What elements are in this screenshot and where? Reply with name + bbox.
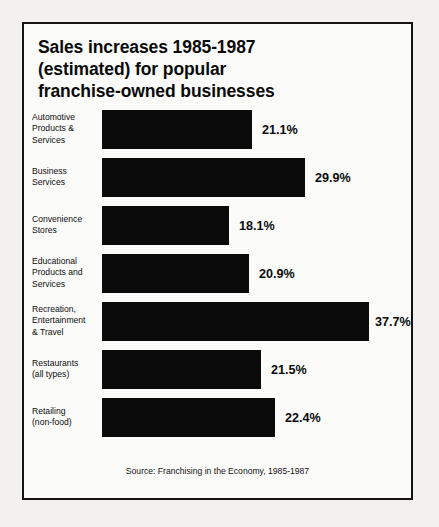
category-label-line: Automotive: [32, 112, 102, 124]
category-label-line: Services: [32, 279, 102, 291]
category-label-line: Business: [32, 166, 102, 178]
category-label: Restaurants (all types): [32, 358, 102, 382]
category-label: Recreation, Entertainment & Travel: [32, 304, 102, 340]
category-label: Business Services: [32, 166, 102, 190]
category-label-line: Services: [32, 178, 102, 190]
bar-row: Restaurants (all types) 21.5%: [24, 350, 411, 389]
category-label-line: Services: [32, 135, 102, 147]
bar: [102, 254, 249, 293]
category-label-line: (all types): [32, 370, 102, 382]
bar: [102, 398, 275, 437]
category-label: Automotive Products & Services: [32, 112, 102, 148]
bar: [102, 302, 369, 341]
source-note: Source: Franchising in the Economy, 1985…: [24, 466, 411, 476]
chart-title-line-1: Sales increases 1985-1987: [38, 36, 368, 58]
category-label: Educational Products and Services: [32, 256, 102, 292]
category-label-line: (non-food): [32, 418, 102, 430]
bar: [102, 350, 261, 389]
category-label-line: Restaurants: [32, 358, 102, 370]
chart-title-line-3: franchise-owned businesses: [38, 80, 368, 102]
bar-value-label: 21.5%: [271, 363, 307, 377]
chart-title-line-2: (estimated) for popular: [38, 58, 368, 80]
bar-row: Retailing (non-food) 22.4%: [24, 398, 411, 437]
bar-row: Automotive Products & Services 21.1%: [24, 110, 411, 149]
category-label-line: Recreation,: [32, 304, 102, 316]
category-label-line: Products and: [32, 268, 102, 280]
bar-value-label: 18.1%: [239, 219, 275, 233]
category-label-line: Entertainment: [32, 316, 102, 328]
bar-row: Educational Products and Services 20.9%: [24, 254, 411, 293]
bar-row: Convenience Stores 18.1%: [24, 206, 411, 245]
bar: [102, 206, 229, 245]
bar-value-label: 20.9%: [259, 267, 295, 281]
category-label-line: Stores: [32, 226, 102, 238]
category-label-line: Convenience: [32, 214, 102, 226]
chart-frame: Sales increases 1985-1987 (estimated) fo…: [22, 22, 413, 500]
bar-value-label: 37.7%: [375, 315, 411, 329]
category-label-line: Retailing: [32, 406, 102, 418]
category-label: Convenience Stores: [32, 214, 102, 238]
bar: [102, 110, 252, 149]
bar: [102, 158, 305, 197]
bar-row: Business Services 29.9%: [24, 158, 411, 197]
bar-value-label: 21.1%: [262, 123, 298, 137]
bar-value-label: 29.9%: [315, 171, 351, 185]
category-label-line: & Travel: [32, 327, 102, 339]
bar-value-label: 22.4%: [285, 411, 321, 425]
bar-chart-plot-area: Automotive Products & Services 21.1% Bus…: [24, 110, 411, 452]
category-label: Retailing (non-food): [32, 406, 102, 430]
bar-row: Recreation, Entertainment & Travel 37.7%: [24, 302, 411, 341]
chart-title: Sales increases 1985-1987 (estimated) fo…: [38, 36, 368, 103]
category-label-line: Products &: [32, 124, 102, 136]
category-label-line: Educational: [32, 256, 102, 268]
